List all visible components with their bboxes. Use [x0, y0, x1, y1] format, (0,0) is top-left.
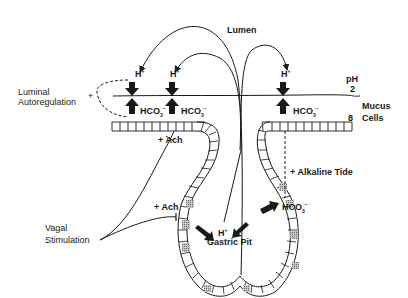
pit-hco3-arrow — [260, 201, 279, 214]
hco3-ion-pit: HCO3− — [282, 199, 308, 216]
h-ion-right: H+ — [281, 66, 290, 79]
ph-boundary-line — [113, 95, 360, 96]
vagal-stimulation-line2: Stimulation — [45, 235, 90, 245]
ph-label: pH — [346, 74, 358, 84]
ph-lumen-value: 2 — [350, 84, 355, 94]
epithelium-left — [112, 122, 205, 131]
h-ion-pit: H+ — [218, 225, 227, 238]
vagal-stimulation-line1: Vagal — [45, 223, 67, 233]
luminal-autoregulation-line2: Autoregulation — [18, 97, 76, 107]
alkaline-tide-label: + Alkaline Tide — [290, 167, 353, 177]
ach-lower-label: + Ach — [154, 202, 178, 212]
hco3-ion-left: HCO3− — [140, 103, 166, 120]
mucus-label-line2: Cells — [362, 113, 384, 123]
h-ion-mid: H+ — [170, 66, 179, 79]
gastric-pit-label: Gastric Pit — [207, 237, 252, 247]
hco3-ion-right: HCO3− — [293, 103, 319, 120]
epithelium-right — [262, 122, 352, 131]
vagal-nerve-lower — [100, 217, 176, 240]
ach-upper-label: + Ach — [158, 135, 182, 145]
luminal-autoregulation-line1: Luminal — [18, 87, 50, 97]
ph-mucus-value: 8 — [348, 113, 353, 123]
luminal-autoregulation-loop — [97, 80, 128, 117]
h-ion-left: H+ — [135, 66, 144, 79]
luminal-plus: + — [88, 91, 93, 101]
gastric-pit-wall — [178, 122, 298, 296]
mucus-label-line1: Mucus — [362, 101, 391, 111]
hco3-ion-mid: HCO3− — [181, 103, 207, 120]
gastric-mucosa-diagram — [0, 0, 408, 298]
lumen-arc-right — [241, 45, 287, 150]
pit-h-line — [224, 150, 241, 222]
lumen-label: Lumen — [227, 25, 257, 35]
h-down-arrows — [125, 82, 290, 96]
